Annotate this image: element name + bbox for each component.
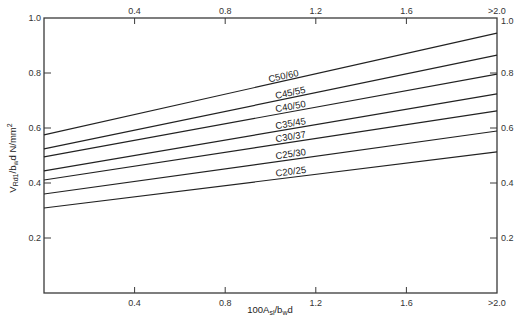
x-tick-label-bottom: >2.0 [488, 298, 506, 308]
line-c30-37 [44, 111, 497, 180]
x-tick-label-top: 1.2 [310, 6, 323, 16]
line-c25-30 [44, 131, 497, 194]
x-tick-label-bottom: 0.8 [219, 298, 232, 308]
x-tick-label-top: 0.4 [128, 6, 141, 16]
y-tick-label-left: 0.6 [28, 123, 41, 133]
y-tick-label-right: 0.8 [501, 68, 514, 78]
x-tick-label-bottom: 0.4 [128, 298, 141, 308]
axis-ticks: 0.40.40.80.81.21.21.61.6>2.0>2.00.20.20.… [28, 6, 513, 308]
line-c20-25 [44, 152, 497, 208]
x-tick-label-top: >2.0 [488, 6, 506, 16]
y-tick-label-left: 0.4 [28, 178, 41, 188]
y-tick-label-left: 0.8 [28, 68, 41, 78]
y-tick-label-right: 0.2 [501, 233, 514, 243]
line-c40-50 [44, 74, 497, 157]
plot-border [44, 18, 497, 293]
concrete-class-lines [44, 33, 497, 208]
y-tick-label-left: 0.2 [28, 233, 41, 243]
line-label: C50/60 [267, 67, 299, 84]
y-tick-label-right: 0.6 [501, 123, 514, 133]
x-tick-label-bottom: 1.6 [400, 298, 413, 308]
x-axis-title: 100Asl/bwd [247, 304, 293, 316]
plot-frame [44, 18, 497, 293]
x-tick-label-top: 1.6 [400, 6, 413, 16]
y-tick-label-right: 0.4 [501, 178, 514, 188]
y-axis-title: VRd1/bwd N/mm2 [6, 123, 19, 192]
y-tick-label-left: 1.0 [28, 13, 41, 23]
line-c45-55 [44, 55, 497, 149]
shear-resistance-chart: C50/60C45/55C40/50C35/45C30/37C25/30C20/… [0, 0, 524, 321]
x-tick-label-top: 0.8 [219, 6, 232, 16]
line-label: C25/30 [275, 146, 307, 161]
line-c35-45 [44, 94, 497, 171]
y-tick-label-right: 1.0 [501, 16, 514, 26]
x-tick-label-bottom: 1.2 [310, 298, 323, 308]
